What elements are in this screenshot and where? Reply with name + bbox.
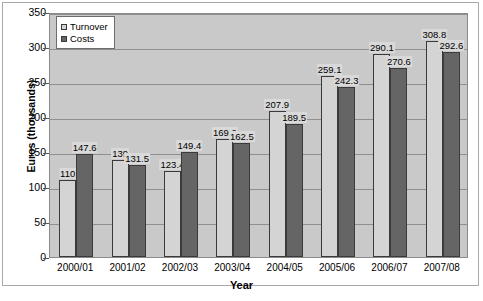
- bar-value-label: 149.4: [177, 140, 203, 151]
- bar-costs: [129, 165, 146, 257]
- legend-item-costs: Costs: [61, 33, 108, 44]
- bar-value-label: 162.5: [229, 131, 255, 142]
- x-axis-tick-label: 2006/07: [363, 262, 415, 273]
- legend-swatch-turnover-icon: [61, 24, 67, 30]
- x-axis-tick-label: 2005/06: [311, 262, 363, 273]
- bar-value-label: 110: [59, 168, 76, 179]
- bar-costs: [443, 52, 460, 257]
- bar-costs: [181, 152, 198, 257]
- bar-series-container: 110147.6139131.5123.4149.4169.2162.5207.…: [50, 14, 467, 257]
- bar-turnover: [112, 160, 129, 257]
- bar-turnover: [216, 139, 233, 257]
- bar-value-label: 131.5: [124, 153, 150, 164]
- legend-item-turnover: Turnover: [61, 21, 108, 32]
- bar-costs: [76, 154, 93, 257]
- bar-costs: [286, 124, 303, 257]
- bar-turnover: [373, 54, 390, 257]
- bar-value-label: 270.6: [386, 56, 412, 67]
- legend-label-turnover: Turnover: [70, 21, 108, 32]
- chart-figure: Euros (thousands) 110147.6139131.5123.41…: [0, 0, 483, 301]
- bar-value-label: 242.3: [334, 75, 360, 86]
- x-axis-tick-label: 2003/04: [206, 262, 258, 273]
- bar-costs: [390, 68, 407, 257]
- bar-turnover: [269, 111, 286, 257]
- y-axis-tick-mark: [43, 83, 49, 84]
- y-axis-tick-mark: [43, 48, 49, 49]
- x-axis-tick-label: 2000/01: [49, 262, 101, 273]
- x-axis-tick-label: 2004/05: [259, 262, 311, 273]
- plot-area: 110147.6139131.5123.4149.4169.2162.5207.…: [49, 13, 468, 258]
- y-axis-tick-label: 200: [12, 111, 46, 123]
- bar-turnover: [164, 171, 181, 257]
- y-axis-tick-mark: [43, 223, 49, 224]
- legend-swatch-costs-icon: [61, 36, 67, 42]
- bar-costs: [338, 87, 355, 257]
- chart-legend: Turnover Costs: [56, 16, 115, 49]
- bar-turnover: [426, 41, 443, 257]
- bar-value-label: 259.1: [317, 64, 343, 75]
- y-axis-tick-label: 300: [12, 41, 46, 53]
- x-axis-title: Year: [0, 279, 483, 291]
- bar-value-label: 292.6: [438, 40, 464, 51]
- bar-value-label: 147.6: [72, 142, 98, 153]
- bar-value-label: 189.5: [281, 112, 307, 123]
- legend-label-costs: Costs: [70, 33, 94, 44]
- y-axis-tick-label: 150: [12, 146, 46, 158]
- y-axis-tick-mark: [43, 188, 49, 189]
- bar-turnover: [321, 76, 338, 257]
- y-axis-tick-mark: [43, 258, 49, 259]
- bar-turnover: [59, 180, 76, 257]
- bar-value-label: 207.9: [264, 99, 290, 110]
- y-axis-tick-mark: [43, 118, 49, 119]
- bar-value-label: 290.1: [369, 42, 395, 53]
- x-axis-tick-label: 2002/03: [154, 262, 206, 273]
- bar-value-label: 308.8: [421, 29, 447, 40]
- bar-costs: [233, 143, 250, 257]
- y-axis-tick-label: 0: [12, 251, 46, 263]
- x-axis-tick-label: 2001/02: [101, 262, 153, 273]
- y-axis-tick-label: 50: [12, 216, 46, 228]
- y-axis-tick-mark: [43, 13, 49, 14]
- y-axis-tick-label: 350: [12, 6, 46, 18]
- x-axis-tick-label: 2007/08: [416, 262, 468, 273]
- y-axis-tick-mark: [43, 153, 49, 154]
- y-axis-tick-label: 100: [12, 181, 46, 193]
- y-axis-tick-label: 250: [12, 76, 46, 88]
